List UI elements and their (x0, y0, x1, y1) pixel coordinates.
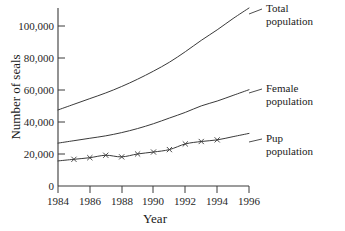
female-population-label-line1: Female (266, 82, 298, 94)
female-population-line (58, 90, 249, 143)
y-tick-label-100000: 100,000 (18, 20, 54, 32)
pup-population-label: Pup population (266, 132, 314, 157)
total-population-line (58, 8, 249, 110)
female-population-label: Female population (266, 82, 314, 107)
x-tick-labels: 1984 1986 1988 1990 1992 1994 1996 (47, 195, 261, 207)
pup-label-leader (249, 139, 262, 142)
total-population-label-line1: Total (266, 2, 288, 14)
seal-population-chart: 100,000 80,000 60,000 40,000 20,000 0 19… (0, 0, 345, 231)
pup-population-line (58, 133, 249, 161)
x-axis-title: Year (143, 211, 168, 226)
y-tick-label-60000: 60,000 (24, 84, 55, 96)
x-tick-label-1990: 1990 (142, 195, 165, 207)
x-tick-label-1984: 1984 (47, 195, 70, 207)
y-ticks (58, 26, 65, 154)
pup-population-label-line1: Pup (266, 132, 284, 144)
y-tick-label-80000: 80,000 (24, 52, 55, 64)
female-label-leader (249, 89, 262, 93)
x-tick-label-1992: 1992 (174, 195, 196, 207)
y-tick-label-20000: 20,000 (24, 148, 55, 160)
female-population-label-line2: population (266, 95, 314, 107)
y-tick-labels: 100,000 80,000 60,000 40,000 20,000 0 (18, 20, 54, 192)
total-label-leader (249, 9, 262, 14)
pup-population-markers (71, 137, 219, 162)
y-tick-label-0: 0 (49, 180, 55, 192)
y-tick-label-40000: 40,000 (24, 116, 55, 128)
pup-population-label-line2: population (266, 145, 314, 157)
y-axis-title: Number of seals (8, 54, 23, 139)
x-tick-label-1986: 1986 (79, 195, 102, 207)
total-population-label: Total population (266, 2, 314, 27)
x-tick-label-1994: 1994 (206, 195, 229, 207)
x-ticks (58, 186, 249, 193)
x-tick-label-1988: 1988 (111, 195, 134, 207)
total-population-label-line2: population (266, 15, 314, 27)
chart-canvas: 100,000 80,000 60,000 40,000 20,000 0 19… (0, 0, 345, 231)
x-tick-label-1996: 1996 (238, 195, 261, 207)
